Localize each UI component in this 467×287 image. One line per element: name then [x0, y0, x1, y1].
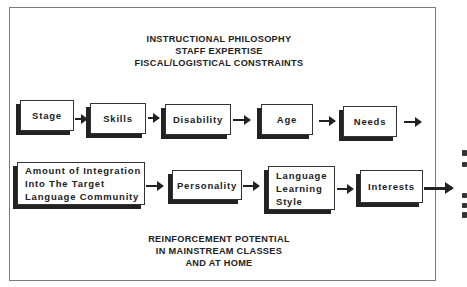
- page-edge-mark: [462, 212, 467, 218]
- page-edge-mark: [462, 203, 467, 208]
- factor-label-line: Language Community: [25, 190, 139, 203]
- factor-box-learning-style: Language Learning Style: [268, 166, 335, 210]
- top-context-label: FISCAL/LOGISTICAL CONSTRAINTS: [0, 57, 438, 69]
- arrow-icon: [146, 185, 162, 187]
- factor-box-disability: Disability: [165, 104, 231, 135]
- bottom-context-label: AND AT HOME: [0, 257, 438, 269]
- arrow-icon: [319, 120, 334, 122]
- factor-box-personality: Personality: [172, 170, 242, 200]
- factor-box-interests: Interests: [360, 170, 423, 203]
- factor-label-line: Learning: [276, 182, 323, 195]
- factor-label-line: Style: [276, 195, 303, 208]
- arrow-icon: [243, 185, 258, 187]
- arrow-icon: [424, 187, 452, 190]
- page-edge-mark: [462, 193, 467, 198]
- factor-box-age: Age: [261, 104, 313, 135]
- page-edge-mark: [462, 150, 467, 156]
- factor-label-line: Language: [276, 169, 327, 182]
- factor-box-stage: Stage: [20, 100, 74, 131]
- arrow-icon: [404, 121, 420, 123]
- factor-label-line: Amount of Integration: [25, 164, 141, 177]
- arrow-icon: [337, 188, 352, 190]
- arrow-icon: [75, 118, 86, 120]
- arrow-icon: [233, 119, 249, 121]
- bottom-context-label: IN MAINSTREAM CLASSES: [0, 245, 438, 257]
- bottom-context-label: REINFORCEMENT POTENTIAL: [0, 233, 438, 245]
- factor-label-line: Into The Target: [25, 177, 105, 190]
- factor-box-skills: Skills: [90, 103, 146, 134]
- top-context-label: INSTRUCTIONAL PHILOSOPHY: [0, 33, 438, 45]
- factor-box-needs: Needs: [343, 106, 397, 137]
- factor-box-integration: Amount of Integration Into The Target La…: [17, 162, 145, 205]
- arrow-icon: [148, 117, 158, 119]
- top-context-label: STAFF EXPERTISE: [0, 45, 438, 57]
- page-edge-mark: [462, 162, 467, 167]
